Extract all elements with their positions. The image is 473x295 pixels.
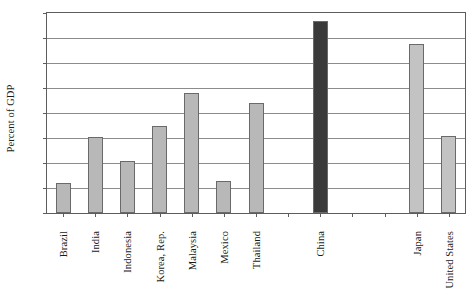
x-axis-tick-mark: [417, 213, 418, 217]
gridline: [47, 38, 465, 39]
y-axis-title-text: Percent of GDP: [6, 84, 17, 152]
bar-brazil: [56, 183, 71, 213]
x-axis-label-india: India: [88, 231, 102, 295]
bar-korea-rep: [152, 126, 167, 214]
x-axis-label-text: Japan: [411, 231, 422, 255]
x-axis-label-korea-rep: Korea, Rep.: [153, 231, 167, 295]
bar-thailand: [249, 103, 264, 213]
x-axis-label-text: Mexico: [218, 231, 229, 264]
x-axis-tick-mark: [95, 213, 96, 217]
x-axis-label-text: China: [315, 231, 326, 257]
y-axis-tick-mark: [43, 113, 47, 114]
y-axis-tick-mark: [43, 88, 47, 89]
x-axis-label-thailand: Thailand: [249, 231, 263, 295]
y-axis-tick-mark: [43, 38, 47, 39]
x-axis-label-text: India: [90, 231, 101, 253]
x-axis-tick-mark: [449, 213, 450, 217]
bar-japan: [409, 44, 424, 213]
bar-china: [313, 21, 328, 214]
x-axis-label-text: United States: [443, 231, 454, 289]
x-axis-label-text: Thailand: [251, 231, 262, 269]
x-axis-label-china: China: [313, 231, 327, 295]
bar-mexico: [216, 181, 231, 214]
x-axis-label-brazil: Brazil: [56, 231, 70, 295]
y-axis-tick-mark: [43, 163, 47, 164]
y-axis-tick-mark: [43, 213, 47, 214]
plot-area: 020406080100120140160BrazilIndiaIndonesi…: [46, 12, 466, 214]
gridline: [47, 63, 465, 64]
bar-malaysia: [184, 93, 199, 213]
y-axis-tick-mark: [43, 13, 47, 14]
x-axis-label-text: Indonesia: [122, 231, 133, 273]
bar-indonesia: [120, 161, 135, 214]
y-axis-tick-mark: [43, 138, 47, 139]
x-axis-label-text: Brazil: [58, 231, 69, 257]
bar-india: [88, 137, 103, 213]
x-axis-tick-mark: [385, 213, 386, 217]
x-axis-tick-mark: [224, 213, 225, 217]
x-axis-label-japan: Japan: [410, 231, 424, 295]
y-axis-tick-mark: [43, 188, 47, 189]
x-axis-tick-mark: [63, 213, 64, 217]
x-axis-label-indonesia: Indonesia: [120, 231, 134, 295]
bar-united-states: [441, 136, 456, 214]
x-axis-tick-mark: [288, 213, 289, 217]
x-axis-label-text: Korea, Rep.: [154, 231, 165, 283]
x-axis-tick-mark: [192, 213, 193, 217]
x-axis-tick-mark: [256, 213, 257, 217]
x-axis-tick-mark: [320, 213, 321, 217]
x-axis-label-malaysia: Malaysia: [185, 231, 199, 295]
y-axis-tick-mark: [43, 63, 47, 64]
x-axis-label-text: Malaysia: [186, 231, 197, 270]
x-axis-tick-mark: [160, 213, 161, 217]
gridline: [47, 88, 465, 89]
x-axis-label-mexico: Mexico: [217, 231, 231, 295]
x-axis-tick-mark: [352, 213, 353, 217]
x-axis-tick-mark: [127, 213, 128, 217]
x-axis-label-united-states: United States: [442, 231, 456, 295]
y-axis-title: Percent of GDP: [2, 48, 20, 188]
bar-chart-figure: Percent of GDP 020406080100120140160Braz…: [0, 0, 473, 295]
